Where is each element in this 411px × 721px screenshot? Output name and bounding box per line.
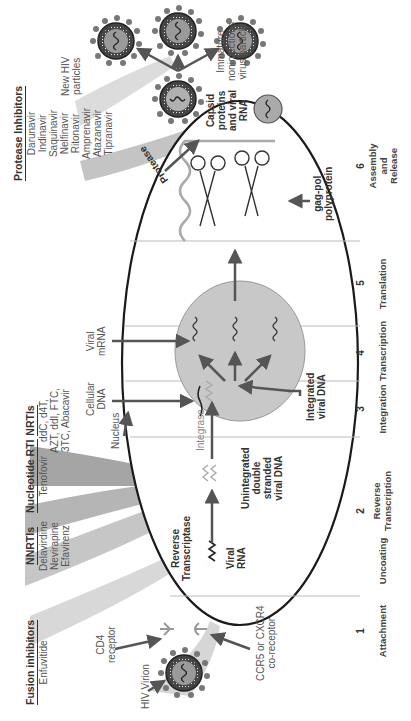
stage-number-3: 3 [355,399,366,419]
stage-integration: Integration [378,377,389,441]
drug-class-protease-inhibitors: Protease Inhibitors Darunavir Indinavir … [8,86,114,181]
stage-number-2: 2 [355,501,366,521]
label-integrated-dna: Integratedviral DNA [305,373,327,421]
stage-transcription: Transcription [378,319,389,383]
stage-assembly-release: AssemblyandRelease [368,136,400,196]
label-viral-rna: ViralRNA [225,547,247,569]
immature-particle [152,73,204,124]
label-coreceptor: CCR5 or CXCR4co-receptor [255,605,277,681]
stage-translation: Translation [378,249,389,319]
receptors [160,623,207,635]
stage-number-6: 6 [355,156,366,176]
label-cellular-dna: CellularDNA [85,382,107,416]
label-unintegrated-dna: Unintegrateddouble strandedviral DNA [240,447,284,509]
label-gag-pol: gag-polpolyprotein [312,167,334,221]
drug-class-nnrtis: NNRTIs Delavirdine Nevirapine Efavirenz [20,521,71,571]
label-hiv-virion: HIV Virion [140,664,151,709]
nucleus [175,281,305,421]
new-hiv-particle-2 [152,5,204,56]
capsid-icon [254,95,282,123]
label-nucleus: Nucleus [110,413,121,449]
stage-attachment: Attachment [378,601,389,661]
stage-number-1: 1 [355,621,366,641]
label-integrase: Integrase [195,409,206,451]
new-hiv-particle-1 [90,15,142,66]
label-immature-particle: Immaturenoninfectiousvirus particle [215,22,248,81]
label-viral-mrna: ViralmRNA [85,327,107,356]
stage-reverse-transcription: ReverseTranscription [372,466,393,536]
drug-class-fusion-inhibitors: Fusion inhibitors Enfuvitide [20,620,49,705]
stage-number-4: 4 [355,343,366,363]
stage-number-5: 5 [355,273,366,293]
hiv-lifecycle-diagram: Fusion inhibitors Enfuvitide NNRTIs Dela… [0,0,411,721]
drug-class-nrtis: NRTIs ddC, d4T, AZT, ddI, FTC, 3TC, Abac… [20,388,71,453]
stage-uncoating: Uncoating [378,531,389,591]
label-reverse-transcriptase: ReverseTranscriptase [170,516,192,581]
label-cd4-receptor: CD4receptor [95,626,117,663]
label-capsid: Capsidproteins and viralRNA [205,90,249,131]
label-new-hiv-particles: New HIVparticles [60,57,82,96]
